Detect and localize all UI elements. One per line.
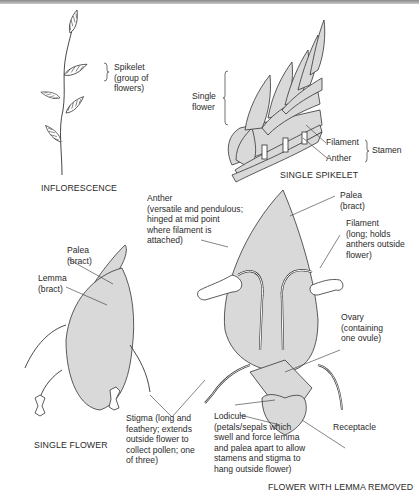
label-palea-left: Palea (bract)	[67, 245, 92, 266]
caption-single-flower: SINGLE FLOWER	[34, 440, 108, 450]
label-lemma: Lemma (bract)	[38, 273, 67, 294]
label-spikelet: Spikelet (group of flowers)	[114, 62, 148, 94]
label-lodicule: Lodicule (petals/sepals which swell and …	[214, 411, 305, 475]
label-single-flower: Single flower	[192, 91, 216, 112]
label-ovary: Ovary (containing one ovule)	[341, 312, 383, 344]
label-palea-right: Palea (bract)	[340, 190, 365, 211]
caption-inflorescence: INFLORESCENCE	[41, 183, 117, 193]
label-anther: Anther	[326, 153, 351, 164]
label-anther-detail: Anther (versatile and pendulous; hinged …	[147, 193, 243, 246]
label-stamen: Stamen	[372, 145, 402, 156]
label-filament: Filament	[326, 137, 359, 148]
label-receptacle: Receptacle	[333, 422, 376, 433]
caption-single-spikelet: SINGLE SPIKELET	[280, 170, 358, 180]
label-filament-detail: Filament (long; holds anthers outside fl…	[346, 218, 405, 260]
single-flower-drawing	[25, 245, 205, 417]
inflorescence-drawing	[41, 10, 109, 175]
caption-flower-lemma-removed: FLOWER WITH LEMMA REMOVED	[268, 482, 413, 492]
label-stigma: Stigma (long and feathery; extends outsi…	[126, 413, 195, 466]
